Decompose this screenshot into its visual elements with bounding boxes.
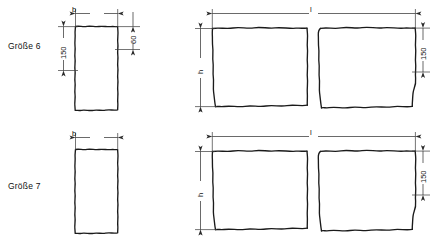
- dim-label-b-row2: b: [72, 130, 76, 138]
- dim-label-150-right-row2: 150: [420, 170, 428, 183]
- row-1-groesse-6: [58, 9, 430, 111]
- dimension-b-row1: [76, 9, 118, 27]
- drawing-canvas: [0, 0, 432, 250]
- block-large-left-row1: [145, 27, 308, 106]
- block-small-row1: [75, 26, 118, 110]
- dim-label-150-left-row1: 150: [60, 46, 68, 59]
- block-large-right-row1: [318, 27, 415, 107]
- dim-label-h-row2: h: [197, 193, 205, 197]
- dim-label-h-row1: h: [197, 70, 205, 74]
- drawing-sheet: [0, 0, 432, 250]
- dim-label-b-row1: b: [72, 6, 76, 14]
- dim-label-l-row1: l: [310, 6, 312, 14]
- dim-label-l-row2: l: [310, 129, 312, 137]
- dimension-l-row2: [212, 132, 415, 152]
- block-large-left-row2: [212, 150, 307, 229]
- dimension-l-row1: [212, 9, 415, 29]
- dim-label-150-right-row1: 150: [420, 47, 428, 60]
- block-large-right-row2: [318, 150, 415, 230]
- row-label-groesse-6: Größe 6: [8, 42, 41, 51]
- row-label-groesse-7: Größe 7: [8, 182, 41, 191]
- block-small-row2: [75, 149, 118, 233]
- row-2-groesse-7: [75, 132, 430, 234]
- dim-label-60-right-row1: 60: [130, 36, 138, 44]
- dimension-b-row2: [76, 133, 118, 150]
